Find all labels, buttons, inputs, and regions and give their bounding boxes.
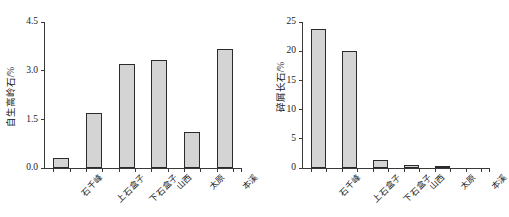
x-axis-tick-mark <box>373 168 374 172</box>
x-axis-label-right-2: 下石盒子 <box>401 172 434 205</box>
x-axis-tick-mark <box>357 168 358 172</box>
bar-left-3 <box>151 60 167 168</box>
plot-area-right: 石千峰上石盒子下石盒子山西太原本溪 0510152025 <box>302 22 489 169</box>
y-axis-tick-mark <box>299 51 303 52</box>
x-axis-labels-left: 石千峰上石盒子下石盒子山西太原本溪 <box>45 168 241 214</box>
y-axis-tick-mark <box>41 168 45 169</box>
x-axis-label-right-4: 太原 <box>458 172 478 192</box>
bar-series-right <box>303 22 489 168</box>
y-axis-tick-label: 0.0 <box>26 163 38 173</box>
y-axis-tick-mark <box>299 22 303 23</box>
x-axis-label-left-2: 下石盒子 <box>147 172 180 205</box>
x-axis-tick-mark <box>217 168 218 172</box>
bar-right-2 <box>373 160 389 168</box>
x-axis-label-right-1: 上石盒子 <box>370 172 403 205</box>
x-axis-label-left-0: 石千峰 <box>79 172 105 198</box>
y-axis-tick-label: 1.5 <box>26 114 38 124</box>
x-axis-tick-mark <box>466 168 467 172</box>
x-axis-tick-mark <box>102 168 103 172</box>
x-axis-tick-mark <box>450 168 451 172</box>
y-axis-tick-mark <box>299 168 303 169</box>
x-axis-tick-mark <box>168 168 169 172</box>
y-axis-tick-label: 20 <box>287 46 297 56</box>
x-axis-tick-mark <box>241 168 242 172</box>
plot-area-left: 石千峰上石盒子下石盒子山西太原本溪 0.01.53.04.5 <box>44 22 241 169</box>
x-axis-tick-mark <box>404 168 405 172</box>
x-axis-tick-mark <box>311 168 312 172</box>
y-axis-tick-mark <box>299 138 303 139</box>
x-axis-label-left-3: 山西 <box>175 172 195 192</box>
y-axis-tick-label: 0 <box>291 163 296 173</box>
y-axis-tick-label: 15 <box>287 75 297 85</box>
y-axis-tick-label: 4.5 <box>26 17 38 27</box>
y-axis-tick-mark <box>299 80 303 81</box>
y-axis-tick-mark <box>41 22 45 23</box>
y-axis-tick-mark <box>41 70 45 71</box>
bar-series-left <box>45 22 241 168</box>
y-axis-tick-label: 5 <box>291 134 296 144</box>
x-axis-tick-mark <box>342 168 343 172</box>
y-axis-title-left: 自生高岭石/% <box>4 32 18 162</box>
y-axis-tick-mark <box>299 109 303 110</box>
x-axis-tick-mark <box>419 168 420 172</box>
x-axis-tick-mark <box>151 168 152 172</box>
x-axis-tick-mark <box>70 168 71 172</box>
bar-left-0 <box>53 158 69 168</box>
x-axis-tick-mark <box>326 168 327 172</box>
x-axis-labels-right: 石千峰上石盒子下石盒子山西太原本溪 <box>303 168 489 214</box>
bar-right-1 <box>342 51 358 168</box>
bar-left-4 <box>184 132 200 168</box>
chart-panel-detrital-feldspar: 碎屑长石/% 石千峰上石盒子下石盒子山西太原本溪 0510152025 <box>248 0 496 217</box>
x-axis-tick-mark <box>489 168 490 172</box>
x-axis-tick-mark <box>388 168 389 172</box>
y-axis-tick-label: 10 <box>287 104 297 114</box>
x-axis-tick-mark <box>481 168 482 172</box>
x-axis-label-left-1: 上石盒子 <box>115 172 148 205</box>
bar-right-0 <box>311 29 327 168</box>
chart-panel-authigenic-kaolinite: 自生高岭石/% 石千峰上石盒子下石盒子山西太原本溪 0.01.53.04.5 <box>0 0 248 217</box>
x-axis-tick-mark <box>200 168 201 172</box>
x-axis-tick-mark <box>53 168 54 172</box>
y-axis-tick-label: 25 <box>287 17 297 27</box>
y-axis-title-right: 碎屑长石/% <box>274 22 288 152</box>
x-axis-tick-mark <box>86 168 87 172</box>
y-axis-tick-mark <box>41 119 45 120</box>
x-axis-tick-mark <box>233 168 234 172</box>
x-axis-label-right-0: 石千峰 <box>336 172 362 198</box>
x-axis-tick-mark <box>184 168 185 172</box>
x-axis-label-right-5: 本溪 <box>489 172 509 192</box>
y-axis-tick-label: 3.0 <box>26 65 38 75</box>
x-axis-tick-mark <box>135 168 136 172</box>
x-axis-tick-mark <box>435 168 436 172</box>
x-axis-label-left-4: 太原 <box>207 172 227 192</box>
bar-left-5 <box>217 49 233 168</box>
x-axis-tick-mark <box>119 168 120 172</box>
bar-left-2 <box>119 64 135 168</box>
bar-left-1 <box>86 113 102 168</box>
